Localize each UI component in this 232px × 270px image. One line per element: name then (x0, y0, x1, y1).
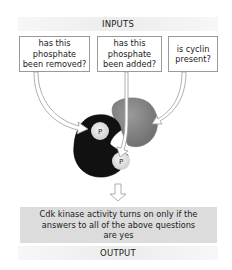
down-arrow-icon (110, 184, 126, 201)
arrow-icon (152, 72, 186, 124)
phosphate-icon: P (91, 122, 109, 140)
output-footer: OUTPUT (18, 246, 218, 260)
arrow-icon (34, 72, 88, 134)
result-text: Cdk kinase activity turns on only if the… (40, 209, 198, 241)
cyclin-shape (112, 98, 157, 147)
svg-text:P: P (98, 128, 102, 136)
result-box: Cdk kinase activity turns on only if the… (20, 207, 217, 243)
svg-text:P: P (119, 158, 123, 166)
